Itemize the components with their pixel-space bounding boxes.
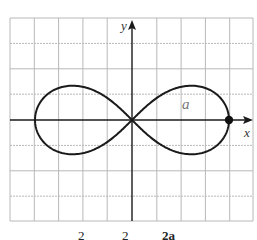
equation-fragment-2: 2 — [122, 228, 129, 240]
x-axis-label: x — [243, 125, 250, 140]
equation-fragment-1: 2 — [78, 228, 85, 240]
point-a-marker — [225, 116, 233, 124]
y-axis-label: y — [119, 18, 127, 33]
lemniscate-diagram: y x a — [0, 0, 257, 240]
curve-label-a: a — [182, 96, 190, 112]
equation-fragment-3: 2a — [162, 228, 175, 240]
